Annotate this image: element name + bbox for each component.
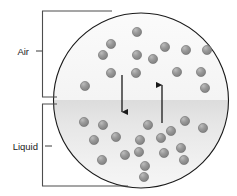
molecule	[98, 50, 107, 59]
diagram-canvas: Air Liquid	[0, 0, 237, 196]
molecule	[166, 126, 175, 135]
molecule	[132, 27, 141, 36]
molecule	[134, 147, 143, 156]
air-liquid-diagram: Air Liquid	[0, 0, 237, 196]
molecule	[143, 120, 152, 129]
molecule	[106, 39, 115, 48]
molecule	[111, 132, 120, 141]
molecule	[196, 67, 205, 76]
molecule	[176, 143, 185, 152]
molecule	[160, 42, 169, 51]
liquid-label: Liquid	[13, 141, 38, 152]
molecule	[79, 117, 88, 126]
molecule	[172, 67, 181, 76]
molecule	[132, 50, 141, 59]
molecule	[198, 123, 207, 132]
molecule	[180, 116, 189, 125]
molecule	[89, 135, 98, 144]
molecule	[200, 83, 209, 92]
molecule	[120, 150, 129, 159]
molecule	[156, 133, 165, 142]
molecule	[106, 68, 115, 77]
air-label: Air	[17, 46, 29, 57]
molecule	[148, 54, 157, 63]
molecule	[179, 155, 188, 164]
molecule	[80, 81, 89, 90]
molecule	[202, 45, 211, 54]
molecule	[135, 135, 144, 144]
molecule	[97, 155, 106, 164]
molecule	[140, 161, 149, 170]
molecule	[159, 148, 168, 157]
molecule	[131, 68, 140, 77]
molecule	[181, 45, 190, 54]
molecule	[139, 172, 148, 181]
molecule	[98, 120, 107, 129]
